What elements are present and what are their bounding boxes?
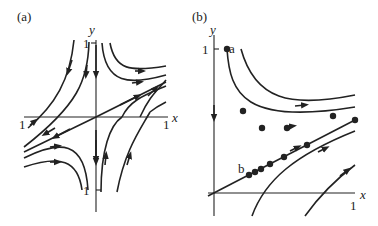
- phase-portrait-figure: (a) y x 1 1 1 1: [0, 0, 378, 226]
- trajectory-a-points: [224, 46, 336, 131]
- panel-a-y-tick-bottom: 1: [83, 183, 90, 198]
- panel-b-y-tick-top: 1: [202, 42, 209, 57]
- panel-b-x-tick-right: 1: [350, 198, 357, 213]
- panel-b-label: (b): [192, 9, 207, 24]
- panel-b-x-axis-label: x: [359, 187, 366, 202]
- panel-a-label: (a): [17, 9, 31, 24]
- panel-a-y-axis-label: y: [87, 22, 95, 37]
- panel-b: (b) y x 1 1 a b: [192, 9, 366, 216]
- panel-a-x-tick-left: 1: [19, 117, 26, 132]
- panel-a-x-tick-right: 1: [163, 117, 170, 132]
- point-label-b: b: [238, 161, 245, 176]
- panel-a: (a) y x 1 1 1 1: [17, 9, 178, 212]
- trajectory-from-a: [227, 49, 355, 112]
- panel-b-y-axis-label: y: [208, 22, 216, 37]
- panel-a-x-axis-label: x: [171, 110, 178, 125]
